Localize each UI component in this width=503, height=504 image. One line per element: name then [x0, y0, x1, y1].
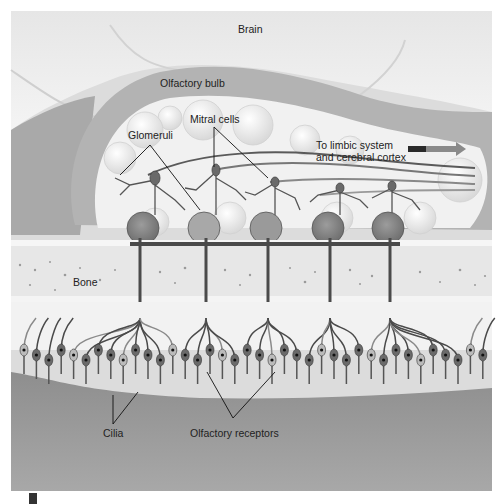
- epithelium-layer: [11, 302, 492, 350]
- label-olfactory-receptors: Olfactory receptors: [190, 427, 279, 439]
- label-cilia: Cilia: [103, 427, 123, 439]
- label-olfactory-bulb: Olfactory bulb: [160, 77, 225, 89]
- label-bone: Bone: [73, 276, 98, 288]
- label-brain: Brain: [238, 23, 263, 35]
- corner-mark: [29, 493, 37, 504]
- label-glomeruli: Glomeruli: [128, 129, 173, 141]
- label-mitral-cells: Mitral cells: [190, 113, 240, 125]
- label-to-limbic-system: To limbic system and cerebral cortex: [316, 139, 406, 163]
